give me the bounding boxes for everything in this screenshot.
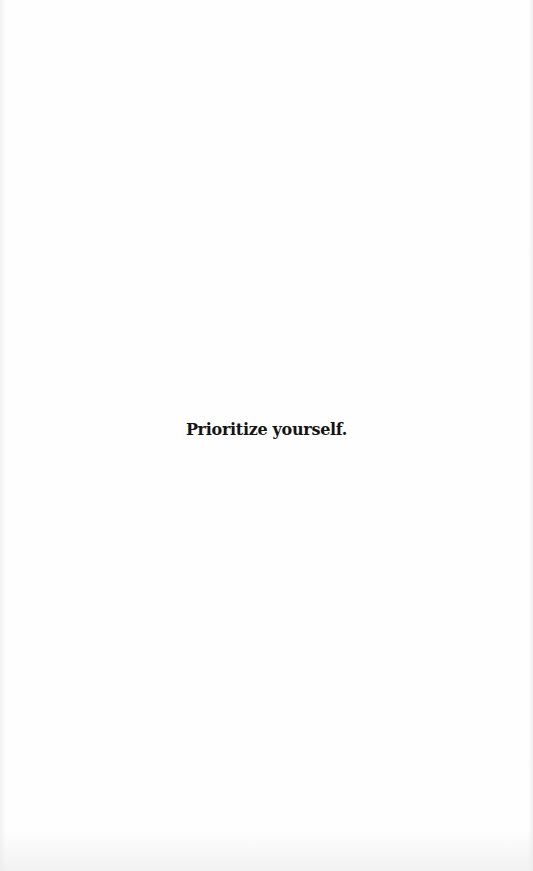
- book-page: Prioritize yourself.: [0, 0, 533, 871]
- page-quote-text: Prioritize yourself.: [0, 419, 533, 441]
